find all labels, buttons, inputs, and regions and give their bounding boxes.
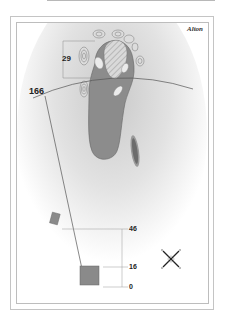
- tee-distance-16: 16: [129, 263, 137, 270]
- top-rule: [47, 0, 215, 1]
- hole-map: Alton 29 166 46 16 0: [16, 22, 209, 304]
- green-depth-label: 29: [62, 54, 71, 63]
- compass-rose-icon: [161, 249, 181, 269]
- tee-distance-46: 46: [129, 225, 137, 232]
- back-tee: [80, 266, 99, 285]
- course-name: Alton: [187, 25, 203, 33]
- carry-distance-label: 166: [29, 86, 44, 96]
- hole-diagram: [17, 23, 209, 304]
- tee-distance-0: 0: [129, 283, 133, 290]
